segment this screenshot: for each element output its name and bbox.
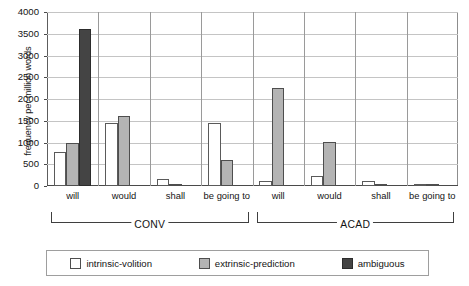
y-tick-mark xyxy=(44,186,48,187)
bar xyxy=(272,88,285,186)
y-tick-mark xyxy=(44,143,48,144)
y-tick-label: 4000 xyxy=(0,6,39,17)
x-axis-separator xyxy=(201,12,202,186)
bar xyxy=(54,152,67,186)
x-axis-label: be going to xyxy=(392,190,469,201)
legend-item[interactable]: intrinsic-volition xyxy=(70,258,152,269)
bar xyxy=(118,116,131,186)
legend-swatch-icon xyxy=(70,258,81,269)
y-tick-mark xyxy=(44,99,48,100)
bar xyxy=(259,181,272,186)
bar xyxy=(311,176,324,186)
x-axis-separator xyxy=(98,12,99,186)
bar xyxy=(323,142,336,186)
y-tick-mark xyxy=(44,164,48,165)
chart-legend: intrinsic-volitionextrinsic-predictionam… xyxy=(46,250,429,276)
y-tick-mark xyxy=(44,12,48,13)
bar xyxy=(414,184,427,186)
y-tick-label: 500 xyxy=(0,158,39,169)
legend-item[interactable]: ambiguous xyxy=(342,258,405,269)
x-axis-separator xyxy=(304,12,305,186)
bar xyxy=(157,179,170,186)
bar xyxy=(375,184,388,186)
y-tick-mark xyxy=(44,34,48,35)
y-tick-label: 1000 xyxy=(0,137,39,148)
plot-area: 05001000150020002500300035004000 xyxy=(47,12,458,186)
bar xyxy=(169,184,182,186)
legend-swatch-icon xyxy=(342,258,353,269)
legend-item[interactable]: extrinsic-prediction xyxy=(199,258,295,269)
bar xyxy=(66,143,79,186)
y-tick-mark xyxy=(44,56,48,57)
legend-label: ambiguous xyxy=(358,258,405,269)
group-bracket: CONV xyxy=(51,212,249,223)
group-label: CONV xyxy=(131,219,168,230)
bar xyxy=(208,123,221,186)
bar xyxy=(105,123,118,186)
x-axis-separator xyxy=(253,12,254,186)
legend-label: extrinsic-prediction xyxy=(215,258,295,269)
y-tick-label: 2500 xyxy=(0,71,39,82)
y-tick-mark xyxy=(44,121,48,122)
y-tick-label: 2000 xyxy=(0,93,39,104)
bar xyxy=(426,184,439,186)
y-tick-label: 3000 xyxy=(0,50,39,61)
legend-label: intrinsic-volition xyxy=(86,258,152,269)
bar xyxy=(362,181,375,186)
x-axis-separator xyxy=(407,12,408,186)
x-axis-separator xyxy=(355,12,356,186)
bar xyxy=(79,29,92,186)
bar xyxy=(221,160,234,186)
x-axis-separator xyxy=(150,12,151,186)
group-label: ACAD xyxy=(337,219,373,230)
y-tick-label: 1500 xyxy=(0,115,39,126)
y-tick-mark xyxy=(44,77,48,78)
bar-chart: frequency per million words 050010001500… xyxy=(0,0,469,286)
group-bracket: ACAD xyxy=(257,212,455,223)
legend-swatch-icon xyxy=(199,258,210,269)
y-tick-label: 3500 xyxy=(0,28,39,39)
